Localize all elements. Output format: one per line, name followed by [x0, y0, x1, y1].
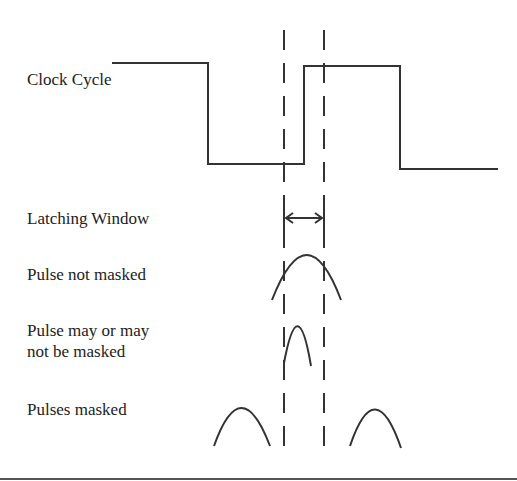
clock-cycle-label: Clock Cycle — [27, 70, 112, 90]
pulse-may-be-masked-label-line1: Pulse may or may — [27, 321, 149, 341]
pulses-masked-label: Pulses masked — [27, 400, 127, 420]
pulse-not-masked — [272, 255, 341, 300]
pulse-masked-left — [214, 408, 270, 446]
pulse-not-masked-label: Pulse not masked — [27, 265, 146, 285]
latching-window-arrow — [284, 203, 324, 233]
clock-waveform — [112, 63, 498, 169]
pulse-may-be-masked-label-line2: not be masked — [27, 342, 125, 362]
pulse-masked-right — [350, 409, 401, 448]
latching-window-label: Latching Window — [27, 209, 149, 229]
pulse-may-be-masked — [284, 326, 311, 366]
